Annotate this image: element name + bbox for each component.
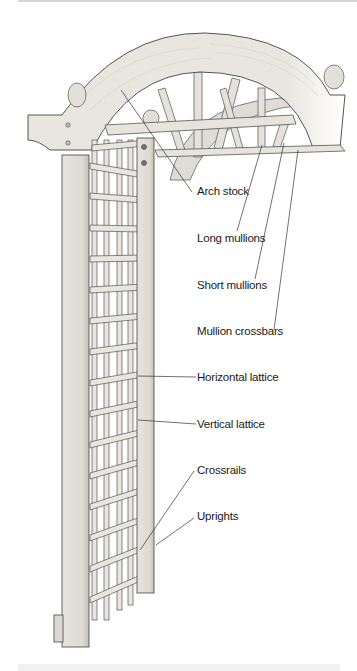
label-uprights: Uprights [197,510,238,522]
label-mullion-crossbars: Mullion crossbars [197,325,283,337]
label-horizontal-lattice: Horizontal lattice [197,371,278,383]
right-upright [137,138,154,593]
left-upright [54,155,89,647]
label-vertical-lattice: Vertical lattice [197,418,265,430]
arbor-illustration [0,0,357,671]
label-crossrails: Crossrails [197,464,246,476]
bottom-rule [18,664,340,671]
label-long-mullions: Long mullions [197,232,265,244]
label-short-mullions: Short mullions [197,279,267,291]
label-arch-stock: Arch stock [197,185,249,197]
